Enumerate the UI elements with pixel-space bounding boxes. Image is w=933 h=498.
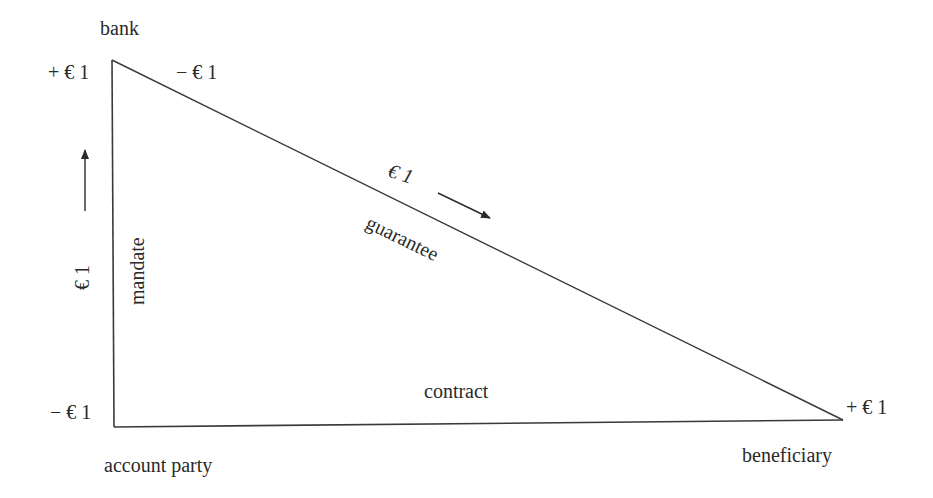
mandate-edge [112, 60, 114, 427]
mandate-flow-amount: € 1 [72, 265, 92, 290]
edge-contract-label: contract [424, 381, 488, 401]
account-party-debit-amount: − € 1 [50, 402, 91, 422]
contract-edge [114, 420, 843, 427]
edge-mandate-label: mandate [127, 237, 147, 305]
node-bank-label: bank [100, 18, 139, 38]
guarantee-triangle-diagram: bank account party beneficiary + € 1 − €… [0, 0, 933, 498]
bank-debit-amount: − € 1 [176, 62, 217, 82]
guarantee-edge [112, 60, 843, 420]
node-account-party-label: account party [104, 455, 212, 475]
beneficiary-credit-amount: + € 1 [846, 397, 887, 417]
node-beneficiary-label: beneficiary [742, 445, 832, 465]
bank-credit-amount: + € 1 [48, 62, 89, 82]
guarantee-flow-arrow-icon [438, 193, 490, 218]
